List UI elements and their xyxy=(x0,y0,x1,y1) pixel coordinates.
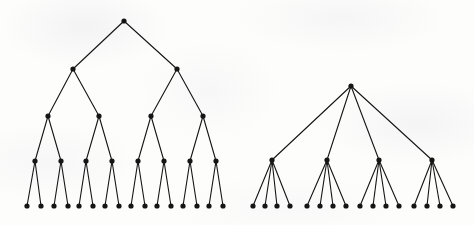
tree-leaf-node xyxy=(343,203,348,208)
tree-internal-node xyxy=(109,158,114,163)
tree-edge xyxy=(73,69,99,116)
tree-internal-node xyxy=(161,158,166,163)
tree-leaf-node xyxy=(357,203,362,208)
tree-internal-node xyxy=(187,158,192,163)
tree-root-node xyxy=(348,83,353,88)
tree-internal-node xyxy=(148,113,153,118)
tree-edge xyxy=(157,161,164,206)
tree-leaf-node xyxy=(450,203,455,208)
tree-edge xyxy=(105,161,112,206)
tree-edge xyxy=(265,160,272,206)
tree-edge xyxy=(351,86,432,160)
tree-edge xyxy=(190,116,203,161)
tree-edge xyxy=(61,161,68,206)
tree-leaf-node xyxy=(370,203,375,208)
tree-leaf-node xyxy=(154,203,159,208)
tree-edge xyxy=(138,116,151,161)
tree-internal-node xyxy=(96,113,101,118)
tree-edge xyxy=(48,116,61,161)
tree-edge xyxy=(86,116,99,161)
tree-edge xyxy=(216,161,223,206)
tree-leaf-node xyxy=(142,203,147,208)
tree-internal-node xyxy=(174,66,179,71)
tree-edge xyxy=(432,160,440,206)
tree-leaf-node xyxy=(38,203,43,208)
tree-edge xyxy=(124,21,177,69)
tree-internal-node xyxy=(135,158,140,163)
tree-leaf-node xyxy=(128,203,133,208)
tree-edge xyxy=(48,69,73,116)
tree-edge xyxy=(86,161,93,206)
tree-edge xyxy=(27,161,35,206)
tree-leaf-node xyxy=(383,203,388,208)
tree-edge xyxy=(112,161,119,206)
tree-edges xyxy=(27,21,223,206)
tree-nodes xyxy=(250,83,455,208)
right-tree xyxy=(250,83,455,208)
tree-leaf-node xyxy=(396,203,401,208)
tree-edge xyxy=(99,116,112,161)
trees-svg xyxy=(0,0,474,225)
tree-edge xyxy=(151,69,177,116)
tree-edge xyxy=(35,161,41,206)
tree-edge xyxy=(151,116,164,161)
tree-leaf-node xyxy=(206,203,211,208)
tree-internal-node xyxy=(83,158,88,163)
tree-leaf-node xyxy=(194,203,199,208)
tree-edge xyxy=(73,21,124,69)
tree-edge xyxy=(432,160,453,206)
tree-leaf-node xyxy=(262,203,267,208)
tree-root-node xyxy=(121,18,126,23)
tree-internal-node xyxy=(429,157,434,162)
tree-figure xyxy=(0,0,474,225)
tree-internal-node xyxy=(269,157,274,162)
tree-leaf-node xyxy=(102,203,107,208)
tree-nodes xyxy=(24,18,225,208)
tree-edge xyxy=(164,161,171,206)
tree-edge xyxy=(35,116,48,161)
tree-internal-node xyxy=(32,158,37,163)
tree-leaf-node xyxy=(24,203,29,208)
tree-leaf-node xyxy=(317,203,322,208)
tree-leaf-node xyxy=(250,203,255,208)
tree-edges xyxy=(253,86,453,206)
tree-edge xyxy=(190,161,197,206)
tree-internal-node xyxy=(200,113,205,118)
tree-edge xyxy=(138,161,145,206)
tree-leaf-node xyxy=(437,203,442,208)
tree-internal-node xyxy=(324,157,329,162)
tree-edge xyxy=(79,161,86,206)
tree-leaf-node xyxy=(116,203,121,208)
tree-edge xyxy=(177,69,203,116)
tree-internal-node xyxy=(58,158,63,163)
tree-edge xyxy=(209,161,216,206)
tree-internal-node xyxy=(376,157,381,162)
left-tree xyxy=(24,18,225,208)
tree-internal-node xyxy=(45,113,50,118)
tree-leaf-node xyxy=(220,203,225,208)
tree-edge xyxy=(253,160,272,206)
tree-leaf-node xyxy=(424,203,429,208)
tree-leaf-node xyxy=(304,203,309,208)
tree-leaf-node xyxy=(51,203,56,208)
tree-leaf-node xyxy=(287,203,292,208)
tree-edge xyxy=(203,116,216,161)
tree-leaf-node xyxy=(168,203,173,208)
tree-edge xyxy=(183,161,190,206)
tree-leaf-node xyxy=(411,203,416,208)
tree-leaf-node xyxy=(180,203,185,208)
tree-leaf-node xyxy=(274,203,279,208)
tree-leaf-node xyxy=(65,203,70,208)
tree-leaf-node xyxy=(90,203,95,208)
tree-edge xyxy=(131,161,138,206)
tree-edge xyxy=(351,86,379,160)
tree-edge xyxy=(54,161,61,206)
tree-leaf-node xyxy=(330,203,335,208)
tree-leaf-node xyxy=(76,203,81,208)
tree-internal-node xyxy=(70,66,75,71)
tree-internal-node xyxy=(213,158,218,163)
